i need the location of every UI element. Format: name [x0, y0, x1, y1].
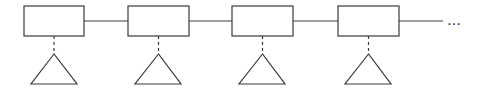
triangle-icon — [31, 54, 77, 84]
node-1 — [24, 6, 84, 84]
node-4 — [338, 6, 399, 84]
node-2 — [128, 6, 189, 84]
node-box — [128, 6, 189, 36]
triangle-icon — [239, 54, 285, 84]
linked-chain-diagram — [0, 0, 489, 91]
chain-nodes — [24, 6, 399, 84]
node-box — [338, 6, 399, 36]
continuation-ellipsis: … — [447, 12, 462, 28]
triangle-icon — [135, 54, 181, 84]
node-box — [24, 6, 84, 36]
node-box — [232, 6, 293, 36]
node-3 — [232, 6, 293, 84]
triangle-icon — [345, 54, 391, 84]
